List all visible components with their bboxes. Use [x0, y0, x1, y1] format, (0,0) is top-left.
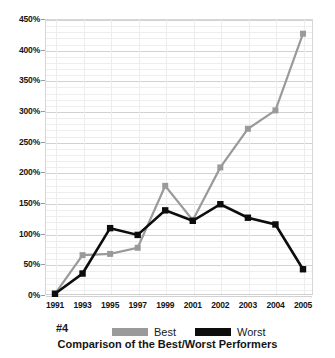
data-point-best-1999[interactable] — [162, 183, 168, 189]
y-axis-label-200: 200% — [0, 168, 40, 176]
data-point-best-1995[interactable] — [107, 251, 113, 257]
chart-caption: Comparison of the Best/Worst Performers — [0, 338, 335, 350]
data-point-worst-2005[interactable] — [300, 266, 306, 272]
data-point-best-2004[interactable] — [272, 107, 278, 113]
data-point-worst-1993[interactable] — [79, 270, 85, 276]
series-layer — [45, 19, 313, 295]
data-point-best-2003[interactable] — [245, 126, 251, 132]
data-point-worst-2002[interactable] — [217, 201, 223, 207]
data-point-best-2005[interactable] — [300, 31, 306, 37]
data-point-best-1997[interactable] — [135, 245, 141, 251]
x-axis-label-2005: 2005 — [283, 300, 323, 310]
legend-item-worst[interactable]: Worst — [195, 322, 266, 335]
y-axis-label-50: 50% — [0, 260, 40, 268]
legend-item-best[interactable]: Best — [112, 322, 176, 335]
chart-legend: #4 Best Worst — [0, 322, 335, 336]
data-point-worst-1999[interactable] — [162, 207, 168, 213]
legend-label-best: Best — [154, 326, 176, 338]
legend-swatch-worst — [195, 328, 231, 336]
legend-swatch-best — [112, 328, 148, 336]
data-point-worst-2004[interactable] — [272, 221, 278, 227]
gridline-major-0 — [46, 296, 312, 297]
y-axis-label-250: 250% — [0, 138, 40, 146]
data-point-worst-1991[interactable] — [52, 291, 58, 297]
y-axis-label-400: 400% — [0, 46, 40, 54]
legend-label-worst: Worst — [237, 326, 266, 338]
data-point-worst-2001[interactable] — [190, 218, 196, 224]
data-point-best-2002[interactable] — [217, 164, 223, 170]
chart-top-title — [0, 0, 335, 8]
series-line-best — [55, 34, 303, 294]
chart-container: 0%50%100%150%200%250%300%350%400%450%199… — [0, 0, 335, 358]
data-point-worst-2003[interactable] — [245, 215, 251, 221]
y-axis-label-100: 100% — [0, 230, 40, 238]
data-point-best-1993[interactable] — [80, 252, 86, 258]
data-point-worst-1997[interactable] — [134, 232, 140, 238]
y-axis-label-300: 300% — [0, 107, 40, 115]
y-axis-label-450: 450% — [0, 15, 40, 23]
data-point-worst-1995[interactable] — [107, 225, 113, 231]
legend-tag: #4 — [56, 322, 68, 334]
series-line-worst — [55, 204, 303, 294]
y-axis-label-150: 150% — [0, 199, 40, 207]
y-axis-tick — [41, 295, 45, 296]
y-axis-label-0: 0% — [0, 291, 40, 299]
y-axis-label-350: 350% — [0, 76, 40, 84]
